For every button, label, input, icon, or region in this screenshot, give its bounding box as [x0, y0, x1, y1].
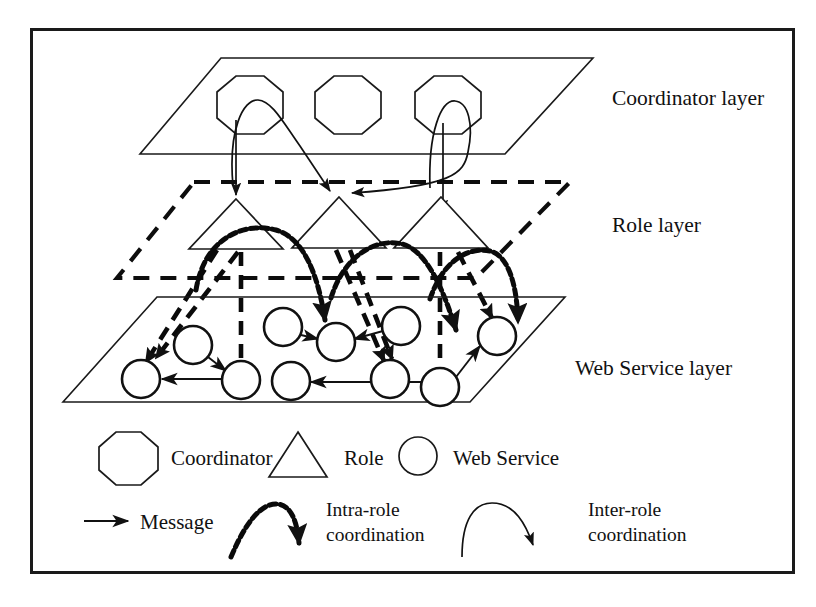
web-service-1: [122, 360, 160, 398]
legend-coordinator-label: Coordinator: [171, 446, 272, 470]
legend-inter-role-label-line2: coordination: [588, 524, 687, 545]
web-service-6: [317, 323, 355, 361]
web-service-layer-label: Web Service layer: [575, 356, 732, 380]
web-service-5: [264, 308, 302, 346]
web-service-2: [174, 326, 212, 364]
legend-message-label: Message: [140, 510, 213, 534]
coordinator-layer-label: Coordinator layer: [612, 86, 764, 110]
figure-border: [32, 30, 794, 573]
coordinator-2: [315, 76, 381, 134]
web-service-7: [382, 307, 420, 345]
web-service-10: [478, 317, 516, 355]
web-service-8: [371, 360, 409, 398]
coordinator-3: [415, 76, 481, 134]
legend-intra-role-label-line2: coordination: [326, 524, 425, 545]
web-service-3: [222, 361, 260, 399]
legend-web-service-label: Web Service: [453, 446, 559, 470]
legend-intra-role-label-line1: Intra-role: [326, 499, 400, 520]
web-service-4: [272, 362, 310, 400]
legend-inter-role-label-line1: Inter-role: [588, 499, 661, 520]
web-service-9: [421, 368, 459, 406]
legend-role-label: Role: [344, 446, 384, 470]
figure-root: Coordinator layer Role layer Web Service…: [0, 0, 816, 607]
coordinator-1: [217, 76, 283, 134]
architecture-diagram: Coordinator layer Role layer Web Service…: [0, 0, 816, 607]
role-layer-label: Role layer: [612, 213, 701, 237]
